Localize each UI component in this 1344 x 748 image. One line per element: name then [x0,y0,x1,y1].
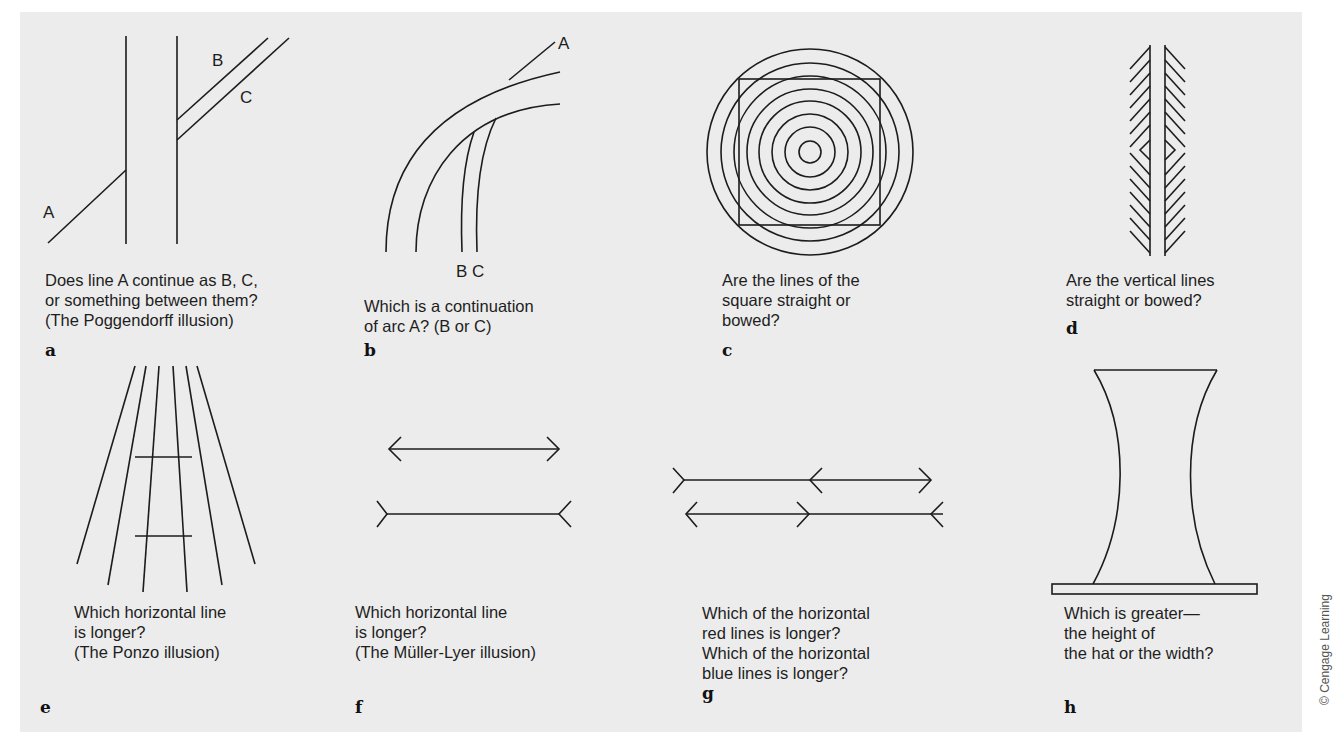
panel-letter-a: a [45,340,56,360]
figure-d-vertical-lines-drawing [1130,45,1185,256]
label-b-B: B [456,262,467,281]
panel-letter-f: f [355,697,362,717]
caption-e: Which horizontal line is longer? (The Po… [74,602,226,662]
label-b-C: C [472,262,484,281]
panel-letter-c: c [722,340,732,360]
caption-h: Which is greater— the height of the hat … [1064,603,1214,663]
label-a-A: A [43,203,55,222]
panel-letter-e: e [40,697,51,717]
panel-letter-b: b [364,340,376,360]
caption-a: Does line A continue as B, C, or somethi… [45,270,258,330]
figure-b-arc-drawing: A B C [386,34,570,281]
figure-a-poggendorff-drawing: A B C [43,36,289,244]
copyright-credit: © Cengage Learning [1318,594,1332,705]
label-a-C: C [240,88,252,107]
figure-g-combined-lines-drawing [673,468,943,527]
panel-letter-h: h [1064,697,1076,717]
figure-e-ponzo-drawing [77,366,255,592]
caption-d: Are the vertical lines straight or bowed… [1066,270,1215,310]
caption-b: Which is a continuation of arc A? (B or … [364,296,534,336]
label-b-A: A [558,34,570,53]
figure-h-hat-drawing [1052,370,1257,594]
panel-letter-d: d [1066,318,1078,338]
caption-f: Which horizontal line is longer? (The Mü… [355,602,536,662]
figure-c-circles-square-drawing [707,49,913,255]
caption-g: Which of the horizontal red lines is lon… [702,603,870,683]
caption-c: Are the lines of the square straight or … [722,270,860,330]
panel-letter-g: g [702,683,714,703]
figure-f-muller-lyer-drawing [377,437,571,527]
label-a-B: B [212,51,223,70]
